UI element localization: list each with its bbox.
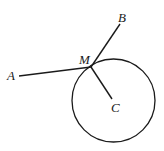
label-c: C <box>111 100 120 115</box>
segment-am <box>19 67 91 76</box>
label-b: B <box>118 10 126 25</box>
geometry-diagram: A B M C <box>0 0 164 151</box>
label-m: M <box>78 52 91 67</box>
segment-mc <box>91 67 112 99</box>
label-a: A <box>6 68 15 83</box>
segment-mb <box>91 24 120 67</box>
